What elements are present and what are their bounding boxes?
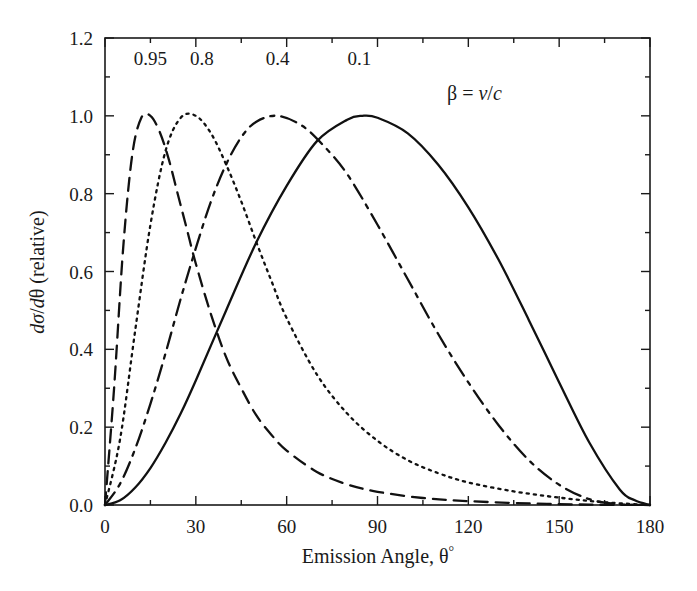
axis-frame xyxy=(105,38,650,505)
y-tick-label: 1.0 xyxy=(69,106,93,127)
curve-beta-0.1 xyxy=(105,116,650,505)
curve-value-label: 0.1 xyxy=(347,48,371,69)
emission-angle-plot: 03060901201501800.00.20.40.60.81.01.2 0.… xyxy=(0,0,697,591)
x-tick-label: 30 xyxy=(186,516,205,537)
data-curves xyxy=(105,114,650,505)
curve-beta-0.4 xyxy=(105,116,650,505)
curve-value-label: 0.8 xyxy=(190,48,214,69)
x-tick-label: 90 xyxy=(368,516,387,537)
legend-annotation: β = v/c xyxy=(447,82,502,105)
curve-value-label: 0.4 xyxy=(266,48,290,69)
chart-figure: 03060901201501800.00.20.40.60.81.01.2 0.… xyxy=(0,0,697,591)
x-tick-label: 0 xyxy=(100,516,110,537)
y-tick-label: 0.0 xyxy=(69,495,93,516)
x-tick-label: 120 xyxy=(454,516,483,537)
x-tick-label: 180 xyxy=(636,516,665,537)
curve-beta-0.95 xyxy=(105,114,650,505)
curve-labels: 0.950.80.40.1 xyxy=(134,48,371,69)
curve-value-label: 0.95 xyxy=(134,48,167,69)
curve-beta-0.8 xyxy=(105,114,650,505)
tick-marks xyxy=(105,38,650,505)
x-tick-label: 60 xyxy=(277,516,296,537)
x-axis-title: Emission Angle, θ° xyxy=(302,544,454,568)
tick-labels: 03060901201501800.00.20.40.60.81.01.2 xyxy=(69,28,664,537)
y-tick-label: 0.4 xyxy=(69,339,93,360)
y-tick-label: 0.8 xyxy=(69,184,93,205)
y-tick-label: 0.6 xyxy=(69,262,93,283)
y-tick-label: 0.2 xyxy=(69,417,93,438)
x-tick-label: 150 xyxy=(545,516,574,537)
y-tick-label: 1.2 xyxy=(69,28,93,49)
y-axis-title: dσ/dθ (relative) xyxy=(26,210,49,333)
